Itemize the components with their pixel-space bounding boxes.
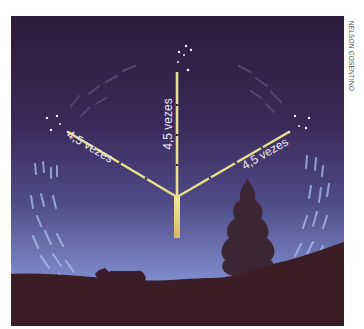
illustration-frame: 4,5 vezes 4,5 vezes 4,5 vezes — [11, 16, 344, 326]
photo-credit: NELSON COSENTINO — [343, 16, 359, 96]
photo-credit-text: NELSON COSENTINO — [348, 21, 355, 91]
label-vertical: 4,5 vezes — [161, 98, 175, 149]
night-sky-illustration: 4,5 vezes 4,5 vezes 4,5 vezes — [11, 16, 344, 326]
pointer-stem — [174, 196, 180, 238]
